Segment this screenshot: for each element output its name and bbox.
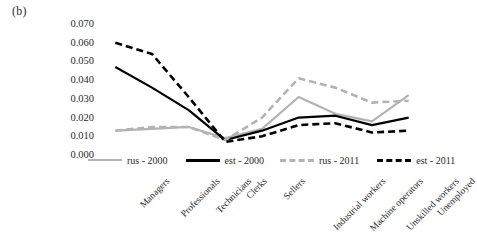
legend-label: rus - 2011 [319,155,359,166]
legend-label: est - 2000 [225,155,264,166]
x-tick-label: Professionals [179,176,222,219]
x-tick-label: Sellers [282,176,307,201]
x-tick-label: Managers [138,176,172,210]
legend-label: rus - 2000 [127,155,168,166]
legend-item: est - 2011 [377,155,455,166]
legend-item: rus - 2011 [280,155,359,166]
legend-item: est - 2000 [186,155,264,166]
legend-label: est - 2011 [416,155,455,166]
chart-legend: rus - 2000est - 2000rus - 2011est - 2011 [88,153,434,167]
legend-swatch [88,159,122,161]
legend-swatch [280,159,314,162]
legend-swatch [186,159,220,162]
legend-item: rus - 2000 [88,155,168,166]
legend-swatch [377,159,411,162]
